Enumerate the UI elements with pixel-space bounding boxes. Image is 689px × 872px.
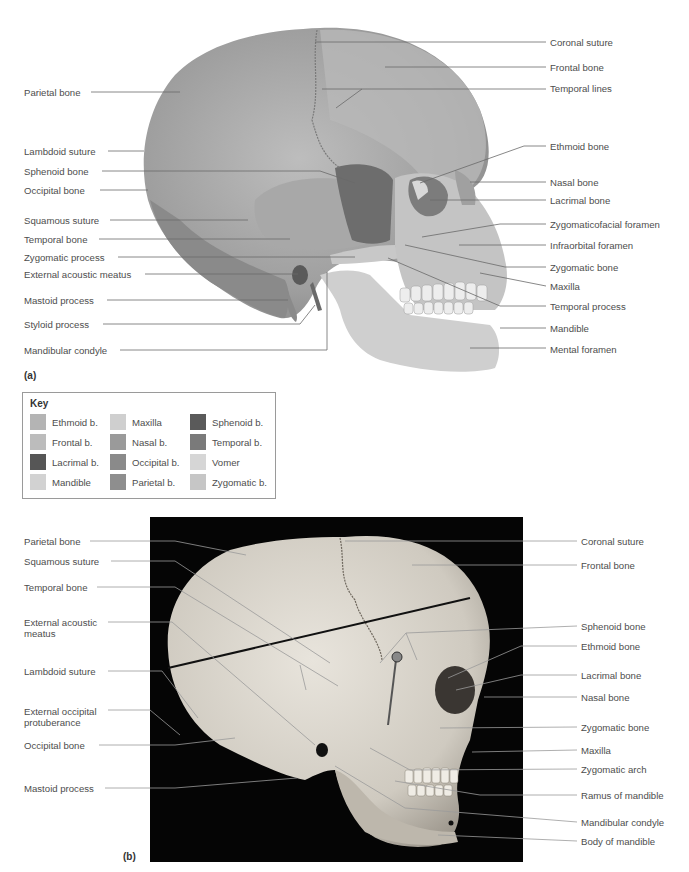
- label-coronal-suture-b: Coronal suture: [581, 536, 644, 547]
- label-nasal-bone-b: Nasal bone: [581, 692, 630, 703]
- label-temporal-bone-b: Temporal bone: [24, 582, 87, 593]
- label-zygomatic-arch-b: Zygomatic arch: [581, 764, 647, 775]
- label-zygomatic-bone-b: Zygomatic bone: [581, 722, 649, 733]
- label-sphenoid-bone-b: Sphenoid bone: [581, 621, 646, 632]
- label-mastoid-process-b: Mastoid process: [24, 783, 94, 794]
- label-mandibular-condyle-b: Mandibular condyle: [581, 817, 664, 828]
- label-body-of-mandible-b: Body of mandible: [581, 836, 655, 847]
- label-frontal-bone-b: Frontal bone: [581, 560, 635, 571]
- label-external-acoustic-meatus-b: External acoustic meatus: [24, 617, 106, 639]
- label-external-occipital-protuberance-b: External occipital protuberance: [24, 706, 106, 728]
- skull-photo-overlay: [0, 0, 689, 872]
- label-parietal-bone-b: Parietal bone: [24, 536, 81, 547]
- label-squamous-suture-b: Squamous suture: [24, 556, 99, 567]
- label-maxilla-b: Maxilla: [581, 745, 611, 756]
- label-ethmoid-bone-b: Ethmoid bone: [581, 641, 640, 652]
- label-lambdoid-suture-b: Lambdoid suture: [24, 666, 95, 677]
- label-lacrimal-bone-b: Lacrimal bone: [581, 670, 641, 681]
- label-occipital-bone-b: Occipital bone: [24, 740, 85, 751]
- panel-b-tag: (b): [123, 851, 136, 862]
- label-ramus-of-mandible-b: Ramus of mandible: [581, 790, 664, 801]
